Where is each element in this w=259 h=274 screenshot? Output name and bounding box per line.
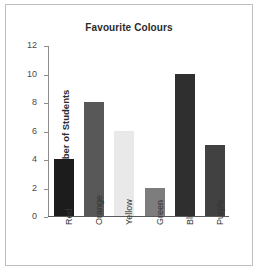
x-tick-label-green: Green xyxy=(155,200,165,225)
chart-frame: Favourite Colours Number of Students 024… xyxy=(5,4,253,266)
y-tick: 0 xyxy=(44,217,48,218)
y-tick: 10 xyxy=(44,75,48,76)
y-tick: 4 xyxy=(44,160,48,161)
bar-slot[interactable]: Yellow xyxy=(114,46,134,216)
bar-slot[interactable]: Red xyxy=(54,46,74,216)
x-tick-label-orange: Orange xyxy=(94,195,104,225)
y-tick-label: 0 xyxy=(32,211,37,221)
bar-slot[interactable]: Orange xyxy=(84,46,104,216)
chart-title: Favourite Colours xyxy=(6,22,252,33)
bar-group: RedOrangeYellowGreenBluePurple xyxy=(49,46,229,216)
y-tick: 2 xyxy=(44,189,48,190)
y-tick-label: 10 xyxy=(27,69,37,79)
bar-slot[interactable]: Purple xyxy=(205,46,225,216)
x-tick-label-yellow: Yellow xyxy=(124,199,134,225)
bar-blue[interactable] xyxy=(175,74,195,217)
y-tick: 8 xyxy=(44,103,48,104)
bar-red[interactable] xyxy=(54,159,74,216)
x-tick-label-red: Red xyxy=(64,208,74,225)
bar-slot[interactable]: Green xyxy=(145,46,165,216)
x-tick-label-purple: Purple xyxy=(215,199,225,225)
plot-area: 024681012 RedOrangeYellowGreenBluePurple xyxy=(48,46,229,217)
x-tick-label-blue: Blue xyxy=(185,207,195,225)
y-tick: 12 xyxy=(44,46,48,47)
y-tick: 6 xyxy=(44,132,48,133)
y-tick-label: 12 xyxy=(27,40,37,50)
x-axis-line xyxy=(48,216,229,217)
bar-slot[interactable]: Blue xyxy=(175,46,195,216)
y-tick-label: 6 xyxy=(32,126,37,136)
y-tick-label: 4 xyxy=(32,154,37,164)
y-tick-label: 2 xyxy=(32,183,37,193)
y-tick-label: 8 xyxy=(32,97,37,107)
